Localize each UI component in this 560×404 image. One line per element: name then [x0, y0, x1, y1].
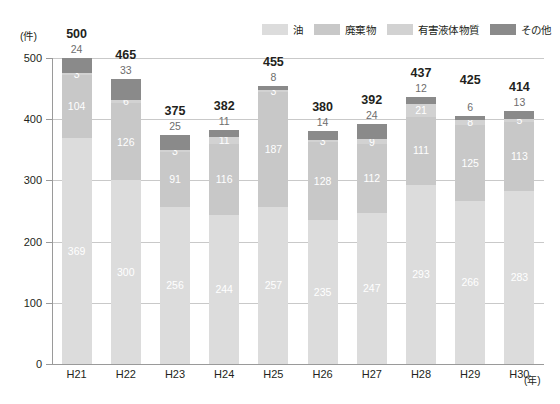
stacked-bar-chart: (件) 油廃棄物有害液体物質その他 0100200300400500 24369… — [0, 0, 560, 404]
bar-stack: 2831135 — [504, 111, 534, 364]
segment-value-label: 24 — [366, 109, 378, 121]
segment-value-label: 283 — [511, 272, 529, 283]
bar-group-h26: 142351283380 — [308, 58, 338, 364]
legend-swatch-icon — [262, 24, 288, 35]
bar-group-h28: 1229311121437 — [406, 58, 436, 364]
x-tick-label-h25: H25 — [263, 368, 283, 380]
segment-value-label: 14 — [317, 116, 329, 128]
bar-segment-有害液体物質: 8 — [455, 120, 485, 125]
segment-value-label: 8 — [270, 71, 276, 83]
bar-total-label: 465 — [115, 48, 136, 62]
bar-group-h21: 243691043500 — [62, 58, 92, 364]
bar-segment-廃棄物: 104 — [62, 75, 92, 139]
y-tick-label: 100 — [24, 297, 42, 309]
bar-total-label: 455 — [263, 55, 284, 69]
bar-segment-有害液体物質: 21 — [406, 104, 436, 117]
segment-value-label: 11 — [219, 115, 230, 127]
bar-stack: 2351283 — [308, 131, 338, 364]
bar-segment-油: 369 — [62, 138, 92, 364]
bar-total-label: 382 — [214, 99, 235, 113]
bar-stack: 29311121 — [406, 97, 436, 364]
legend-label: 油 — [293, 22, 303, 37]
bar-segment-その他 — [258, 86, 288, 91]
x-tick-label-h29: H29 — [460, 368, 480, 380]
bar-segment-油: 235 — [308, 220, 338, 364]
bar-segment-有害液体物質: 5 — [504, 119, 534, 122]
bar-segment-有害液体物質: 3 — [258, 90, 288, 92]
legend-label: 有害液体物質 — [418, 22, 479, 37]
segment-value-label: 6 — [467, 101, 473, 113]
bar-segment-有害液体物質: 6 — [111, 100, 141, 104]
y-tick-label: 300 — [24, 174, 42, 186]
bar-segment-有害液体物質: 11 — [209, 137, 239, 144]
segment-value-label: 256 — [166, 280, 184, 291]
x-axis-unit-label: (年) — [524, 372, 541, 387]
bar-segment-油: 300 — [111, 180, 141, 364]
bar-stack: 256913 — [160, 135, 190, 364]
bar-stack: 2471129 — [357, 124, 387, 364]
bar-segment-有害液体物質: 9 — [357, 139, 387, 145]
segment-value-label: 293 — [412, 269, 430, 280]
x-tick-label-h24: H24 — [214, 368, 234, 380]
y-axis-unit-label: (件) — [20, 28, 37, 43]
bar-total-label: 437 — [411, 66, 432, 80]
bar-segment-その他 — [308, 131, 338, 140]
x-tick-label-h21: H21 — [67, 368, 87, 380]
segment-value-label: 247 — [363, 283, 381, 294]
chart-legend: 油廃棄物有害液体物質その他 — [262, 22, 560, 37]
bar-total-label: 425 — [460, 73, 481, 87]
bar-segment-有害液体物質: 3 — [160, 150, 190, 152]
x-tick-label-h27: H27 — [362, 368, 382, 380]
segment-value-label: 112 — [363, 173, 380, 184]
plot-area: 0100200300400500 24369104350033300126646… — [52, 58, 544, 364]
bar-segment-廃棄物: 111 — [406, 117, 436, 185]
legend-swatch-icon — [490, 24, 516, 35]
segment-value-label: 33 — [120, 64, 132, 76]
bar-segment-廃棄物: 187 — [258, 92, 288, 206]
x-tick-label-h22: H22 — [116, 368, 136, 380]
bar-segment-油: 266 — [455, 201, 485, 364]
legend-label: その他 — [521, 22, 552, 37]
legend-swatch-icon — [314, 24, 340, 35]
bar-segment-油: 283 — [504, 191, 534, 364]
bar-group-h29: 62661258425 — [455, 58, 485, 364]
segment-value-label: 128 — [314, 176, 332, 187]
legend-swatch-icon — [387, 24, 413, 35]
bar-segment-その他 — [111, 79, 141, 99]
bar-total-label: 414 — [509, 80, 530, 94]
bar-segment-油: 256 — [160, 207, 190, 364]
y-tick-mark — [46, 364, 52, 365]
bar-segment-廃棄物: 128 — [308, 142, 338, 220]
bar-segment-廃棄物: 112 — [357, 144, 387, 213]
x-tick-label-h26: H26 — [313, 368, 333, 380]
bar-stack: 2661258 — [455, 116, 485, 364]
segment-value-label: 126 — [117, 137, 135, 148]
bar-segment-その他 — [160, 135, 190, 150]
bar-segment-廃棄物: 126 — [111, 103, 141, 180]
segment-value-label: 235 — [314, 287, 332, 298]
legend-item-3: その他 — [490, 22, 552, 37]
bar-segment-廃棄物: 116 — [209, 144, 239, 215]
bar-segment-その他 — [357, 124, 387, 139]
bar-group-h25: 82571873455 — [258, 58, 288, 364]
segment-value-label: 111 — [413, 145, 429, 156]
x-tick-label-h23: H23 — [165, 368, 185, 380]
legend-item-0: 油 — [262, 22, 303, 37]
bar-segment-その他 — [455, 116, 485, 120]
bar-group-h22: 333001266465 — [111, 58, 141, 364]
bar-stack: 24411611 — [209, 130, 239, 364]
segment-value-label: 244 — [215, 284, 233, 295]
bar-segment-廃棄物: 113 — [504, 122, 534, 191]
bar-group-h23: 25256913375 — [160, 58, 190, 364]
segment-value-label: 266 — [461, 277, 479, 288]
legend-label: 廃棄物 — [345, 22, 376, 37]
segment-value-label: 369 — [68, 246, 86, 257]
segment-value-label: 91 — [169, 174, 181, 185]
bar-segment-有害液体物質: 3 — [308, 140, 338, 142]
bar-segment-廃棄物: 125 — [455, 125, 485, 202]
bar-total-label: 375 — [165, 104, 186, 118]
bar-segment-その他 — [62, 58, 92, 73]
legend-item-2: 有害液体物質 — [387, 22, 479, 37]
bar-segment-油: 244 — [209, 215, 239, 364]
bar-total-label: 392 — [361, 93, 382, 107]
